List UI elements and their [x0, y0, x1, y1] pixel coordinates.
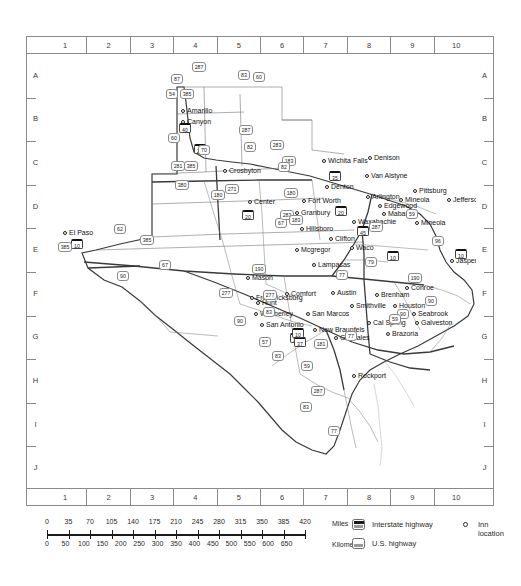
scale-miles-ticks: 03570105140175210245280315350385420 [40, 518, 320, 529]
city-label: Mcgregor [301, 246, 331, 253]
city-label: Austin [337, 289, 356, 296]
scale-tick-miles: 175 [143, 518, 167, 525]
scale-bar-tick [47, 530, 48, 539]
us-highway-shield-icon: 79 [365, 257, 377, 267]
us-highway-shield-icon: 180 [211, 190, 225, 200]
grid-row-tick [484, 359, 493, 360]
grid-col-1-bottom: 1 [44, 489, 87, 506]
us-highway-shield-icon: 90 [234, 316, 246, 326]
grid-row-A-left: A [27, 71, 44, 80]
us-highway-shield-icon: 190 [252, 264, 266, 274]
us-highway-shield-icon: 385 [184, 161, 198, 171]
scale-bar-tick [155, 530, 156, 539]
us-highway-shield-icon: 180 [284, 188, 298, 198]
legend-label-interstate: Interstate highway [372, 520, 433, 529]
grid-row-B-left: B [27, 114, 44, 123]
city-label: Hillsboro [306, 225, 333, 232]
scale-bar-tick [219, 530, 220, 539]
city-label: New Braunfels [319, 326, 365, 333]
scale-tick-miles: 105 [100, 518, 124, 525]
grid-col-6-top: 6 [261, 37, 304, 54]
city-label: Clifton [335, 235, 355, 242]
scale-bar-tick [69, 530, 70, 539]
grid-row-H-left: H [27, 376, 44, 385]
scale-bar-graphic [40, 530, 320, 539]
us-highway-shield-icon: 90 [425, 296, 437, 306]
us-highway-shield-icon: 57 [259, 337, 271, 347]
city-label: Denison [374, 154, 400, 161]
grid-col-4-bottom: 4 [174, 489, 217, 506]
us-highway-shield-icon: 77 [328, 426, 340, 436]
scale-bar-tick [133, 530, 134, 539]
us-highway-shield-icon: 385 [58, 242, 72, 252]
grid-row-tick [484, 185, 493, 186]
us-highway-shield-icon: 385 [180, 89, 194, 99]
us-highway-shield-icon: 380 [175, 180, 189, 190]
city-label: Jefferson [453, 196, 476, 203]
inn-location-circle-icon [463, 522, 468, 527]
city-label: Lampasas [318, 261, 350, 268]
scale-bar-tick [262, 530, 263, 539]
us-highway-shield-icon: 59 [301, 361, 313, 371]
grid-row-E-right: E [476, 245, 493, 254]
city-label: Edgewood [384, 202, 417, 209]
us-highway-shield-icon: 60 [253, 72, 265, 82]
grid-row-tick [484, 98, 493, 99]
us-highway-shield-icon: 287 [369, 222, 383, 232]
us-highway-shield-icon: 190 [408, 273, 422, 283]
us-highway-shield-icon: 96 [432, 236, 444, 246]
grid-col-9-bottom: 9 [391, 489, 434, 506]
grid-row-tick [484, 403, 493, 404]
us-highway-shield-icon: 62 [114, 224, 126, 234]
grid-row-tick [484, 141, 493, 142]
interstate-shield-icon: 10 [71, 239, 83, 249]
us-highway-shield-icon: 77 [336, 270, 348, 280]
us-highway-shield-icon: 271 [225, 184, 239, 194]
map-plot-area[interactable]: AmarilloCanyonCrosbytonWichita FallsDeni… [44, 54, 476, 488]
us-highway-shield-icon: 54 [166, 89, 178, 99]
scale-tick-miles: 140 [121, 518, 145, 525]
grid-row-J-left: J [27, 463, 44, 472]
us-highway-shield-icon: 385 [140, 235, 154, 245]
us-highway-shield-icon: 281 [171, 161, 185, 171]
city-label: Crosbyton [229, 167, 261, 174]
scale-bar-tick [176, 530, 177, 539]
grid-col-9-top: 9 [391, 37, 434, 54]
scale-tick-miles: 350 [250, 518, 274, 525]
interstate-shield-icon: 35 [329, 171, 341, 181]
grid-col-10-top: 10 [435, 37, 478, 54]
grid-row-tick [484, 228, 493, 229]
grid-col-1-top: 1 [44, 37, 87, 54]
us-highway-shield-icon: 83 [300, 402, 312, 412]
scale-tick-kilometers: 650 [275, 540, 299, 547]
scale-tick-miles: 245 [186, 518, 210, 525]
grid-col-8-top: 8 [348, 37, 391, 54]
grid-row-B-right: B [476, 114, 493, 123]
grid-row-F-right: F [476, 289, 493, 298]
city-label: Smithville [356, 302, 386, 309]
city-label: Waco [356, 244, 374, 251]
grid-col-3-bottom: 3 [131, 489, 174, 506]
scale-tick-miles: 210 [164, 518, 188, 525]
city-label: Amarillo [187, 107, 212, 114]
grid-row-I-right: I [476, 420, 493, 429]
interstate-shield-icon: 37 [294, 337, 306, 347]
us-highway-shield-icon: 277 [263, 290, 277, 300]
city-label: Seabrook [418, 310, 448, 317]
grid-row-E-left: E [27, 245, 44, 254]
us-highway-shield-icon: 183 [289, 215, 303, 225]
us-highway-shield-icon: 90 [117, 271, 129, 281]
us-highway-shield-icon: 287 [239, 125, 253, 135]
us-highway-shield-icon: 67 [159, 260, 171, 270]
interstate-shield-icon: 10 [292, 328, 304, 338]
us-highway-shield-icon: 287 [311, 386, 325, 396]
map-frame: 12345678910 12345678910 [26, 36, 494, 506]
grid-col-8-bottom: 8 [348, 489, 391, 506]
scale-bar-tick [284, 530, 285, 539]
interstate-shield-icon: 40 [179, 123, 191, 133]
us-highway-shield-icon: 83 [263, 307, 275, 317]
city-label: Mason [252, 274, 273, 281]
map-legend: 03570105140175210245280315350385420 0501… [26, 512, 494, 574]
city-label: San Antonio [266, 321, 304, 328]
us-highway-shield-icon: 82 [278, 162, 290, 172]
